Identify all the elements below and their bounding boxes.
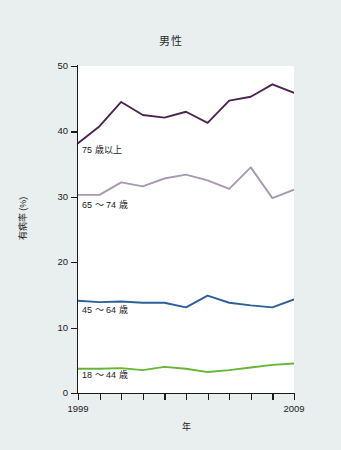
series-line-0 [78, 84, 294, 143]
chart-title: 男性 [0, 32, 341, 48]
x-tick-mark [143, 394, 144, 400]
series-label-2: 45 〜 64 歳 [82, 303, 128, 316]
y-tick-mark [71, 66, 77, 67]
y-tick-mark [71, 393, 77, 394]
x-tick-mark [100, 394, 101, 400]
x-tick-mark [186, 394, 187, 400]
y-tick-mark [71, 328, 77, 329]
chart-figure: 男性 01020304050 19992009 有病率 (%) 年 75 歳以上… [0, 0, 341, 450]
y-tick-label: 30 [28, 191, 68, 202]
x-tick-mark [208, 394, 209, 400]
series-label-0: 75 歳以上 [82, 143, 122, 156]
series-label-1: 65 〜 74 歳 [82, 198, 128, 211]
y-tick-label: 50 [28, 60, 68, 71]
x-tick-label: 1999 [56, 403, 100, 414]
plot-area [78, 66, 294, 393]
y-tick-mark [71, 131, 77, 132]
x-tick-label: 2009 [272, 403, 316, 414]
x-tick-mark [272, 394, 273, 400]
x-tick-mark [78, 394, 79, 400]
x-tick-mark [294, 394, 295, 400]
y-tick-mark [71, 197, 77, 198]
series-lines [78, 66, 294, 393]
x-tick-mark [121, 394, 122, 400]
y-axis-title: 有病率 (%) [16, 179, 29, 259]
series-line-1 [78, 167, 294, 198]
y-tick-mark [71, 262, 77, 263]
y-tick-label: 10 [28, 322, 68, 333]
x-tick-mark [164, 394, 165, 400]
series-label-3: 18 〜 44 歳 [82, 368, 128, 381]
y-tick-label: 20 [28, 256, 68, 267]
x-axis-title: 年 [78, 420, 294, 433]
y-axis-line [77, 65, 78, 394]
x-tick-mark [229, 394, 230, 400]
x-tick-mark [251, 394, 252, 400]
y-tick-label: 0 [28, 387, 68, 398]
y-tick-label: 40 [28, 125, 68, 136]
